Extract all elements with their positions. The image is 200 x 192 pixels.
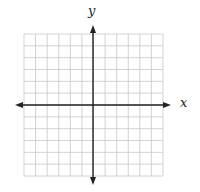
coordinate-plane <box>0 0 200 192</box>
y-axis-up-arrow-icon <box>90 25 96 33</box>
y-axis-down-arrow-icon <box>90 177 96 185</box>
x-axis-left-arrow-icon <box>15 102 23 108</box>
x-axis-label: x <box>180 96 187 109</box>
y-axis-label: y <box>88 4 95 17</box>
axes <box>15 25 171 185</box>
x-axis-right-arrow-icon <box>163 102 171 108</box>
